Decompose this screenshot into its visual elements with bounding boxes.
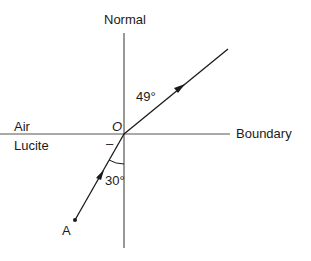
- origin-label: O: [112, 120, 122, 133]
- point-a-dot: [73, 218, 77, 222]
- incidence-angle-arc: [109, 160, 124, 164]
- incidence-angle-label: 30°: [105, 174, 125, 187]
- air-label: Air: [14, 120, 30, 133]
- boundary-label: Boundary: [236, 127, 292, 140]
- dash-mark: –: [106, 137, 113, 150]
- incident-arrowhead-icon: [96, 170, 104, 180]
- lucite-label: Lucite: [14, 139, 49, 152]
- normal-label: Normal: [104, 13, 146, 26]
- refraction-angle-label: 49°: [136, 90, 156, 103]
- point-a-label: A: [62, 224, 71, 237]
